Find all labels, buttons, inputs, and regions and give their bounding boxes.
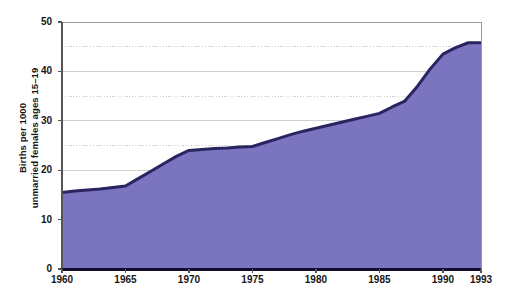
x-axis-tick-label: 1980 [296,275,336,285]
y-axis-title: Births per 1000 unmarried females ages 1… [0,0,58,275]
x-axis-tick-label: 1970 [169,275,209,285]
y-axis-tick-label: 10 [28,215,52,225]
area-chart: Births per 1000 unmarried females ages 1… [0,0,511,291]
y-axis-tick-label: 30 [28,116,52,126]
x-axis-tick-label: 1960 [42,275,82,285]
x-axis-tick-label: 1975 [232,275,272,285]
y-axis-tick-label: 0 [28,264,52,274]
y-axis-tick-label: 40 [28,66,52,76]
plot-area [0,0,511,291]
x-axis-tick-label: 1993 [461,275,501,285]
y-axis-title-line2: unmarried females ages 15–19 [29,67,41,208]
y-axis-title-line1: Births per 1000 [17,102,28,172]
x-axis-tick-label: 1985 [359,275,399,285]
x-axis-tick-label: 1990 [423,275,463,285]
x-axis-tick-label: 1965 [105,275,145,285]
y-axis-tick-label: 20 [28,165,52,175]
y-axis-tick-label: 50 [28,17,52,27]
